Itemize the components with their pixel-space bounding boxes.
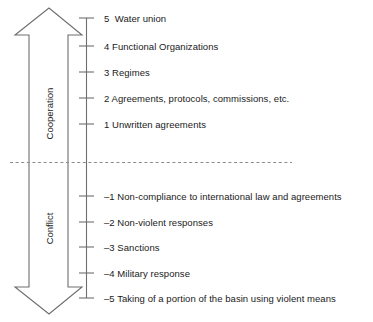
conflict-label: Conflict [44, 159, 55, 299]
level-label-minus-4: –4 Military response [104, 268, 190, 279]
level-label-5: 5 Water union [104, 13, 166, 24]
level-label-4: 4 Functional Organizations [104, 41, 218, 52]
level-label-minus-5: –5 Taking of a portion of the basin usin… [104, 293, 336, 304]
level-label-2: 2 Agreements, protocols, commissions, et… [104, 93, 289, 104]
level-label-minus-3: –3 Sanctions [104, 242, 160, 253]
level-label-minus-2: –2 Non-violent responses [104, 217, 213, 228]
level-label-minus-1: –1 Non-compliance to international law a… [104, 191, 342, 202]
level-label-1: 1 Unwritten agreements [104, 119, 206, 130]
intensity-scale-diagram: Cooperation Conflict 5 Water union 4 Fun… [0, 0, 373, 322]
level-label-3: 3 Regimes [104, 67, 150, 78]
